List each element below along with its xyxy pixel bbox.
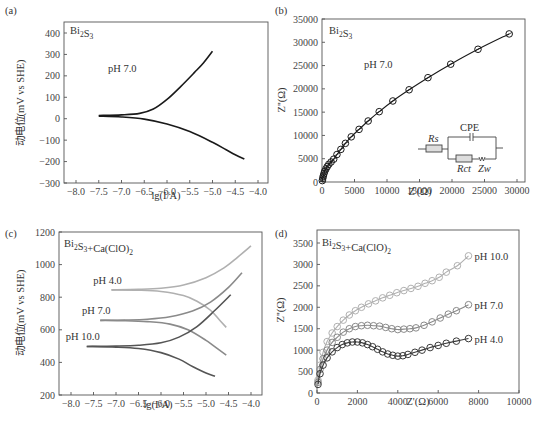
sample-label: Bi2S3: [70, 25, 94, 41]
sample-label: Bi2S3+Ca(ClO)2: [64, 238, 133, 257]
y-axis: 0500100015002000250030003500: [293, 238, 320, 399]
chart-panel-3: (d)0200040006000800010000050010001500200…: [275, 228, 532, 408]
circuit-label-rs: Rs: [427, 133, 439, 144]
y-tick-label: 300: [45, 49, 60, 60]
y-axis-title: Z''(Ω): [276, 87, 288, 112]
x-tick-label: 0: [315, 396, 320, 407]
x-tick-label: −5.0: [197, 398, 215, 409]
y-axis: −300−200−1000100200300400: [39, 28, 67, 189]
y-tick-label: 20000: [293, 83, 318, 94]
y-tick-label: −300: [39, 178, 60, 189]
x-tick-label: 5000: [345, 185, 365, 196]
x-tick-label: −4.5: [219, 398, 237, 409]
x-axis-title: lg(I/A): [143, 399, 173, 411]
series-label: pH 7.0: [475, 300, 504, 311]
y-tick-label: 100: [45, 92, 60, 103]
y-tick-label: 2500: [293, 280, 313, 291]
sample-label: Bi2S3: [329, 25, 353, 41]
x-axis-title: Z'(Ω): [408, 186, 432, 198]
panel-label: (b): [275, 5, 288, 17]
x-tick-label: 10000: [375, 185, 400, 196]
data-series: pH 10.0: [315, 251, 509, 384]
data-series: [112, 290, 227, 327]
x-tick-label: −4.0: [249, 186, 267, 197]
y-tick-label: 1500: [293, 323, 313, 334]
data-series: [87, 346, 215, 376]
y-tick-label: 800: [40, 292, 55, 303]
circuit-label-cpe: CPE: [460, 122, 479, 133]
x-tick-label: 10000: [507, 396, 532, 407]
x-axis-title: lg(I/A): [151, 190, 181, 202]
x-tick-label: −5.5: [174, 398, 192, 409]
chart-panel-0: (a)−8.0−7.5−7.0−6.5−6.0−5.5−5.0−4.5−4.0−…: [5, 5, 268, 202]
data-series: [99, 116, 245, 159]
y-tick-label: 400: [40, 357, 55, 368]
y-tick-label: 500: [298, 366, 313, 377]
ph-annotation: pH 7.0: [108, 63, 137, 74]
series-label: pH 4.0: [475, 334, 504, 345]
y-axis: 20040060080010001200: [35, 227, 62, 401]
circuit-label-rct: Rct: [456, 163, 472, 174]
x-tick-label: 6000: [428, 396, 448, 407]
y-tick-label: −200: [39, 156, 60, 167]
panel-label: (d): [275, 228, 288, 240]
x-tick-label: −7.5: [90, 186, 108, 197]
y-tick-label: 3500: [293, 238, 313, 249]
sample-label: Bi2S3+Ca(ClO)2: [322, 237, 391, 256]
y-tick-label: 200: [45, 70, 60, 81]
data-series: [99, 51, 213, 115]
y-tick-label: 35000: [293, 14, 318, 25]
series-label: pH 10.0: [475, 251, 509, 262]
x-tick-label: 0: [320, 185, 325, 196]
y-axis: 05000100001500020000250003000035000: [293, 14, 325, 188]
y-axis-title: Z''(Ω): [275, 297, 287, 322]
data-series: [100, 320, 226, 355]
x-tick-label: 25000: [472, 185, 497, 196]
y-tick-label: 2000: [293, 302, 313, 313]
figure-canvas: (a)−8.0−7.5−7.0−6.5−6.0−5.5−5.0−4.5−4.0−…: [0, 0, 543, 436]
x-tick-label: −7.5: [84, 398, 102, 409]
data-series: pH 4.0: [315, 334, 503, 388]
panel-label: (c): [5, 228, 17, 240]
equivalent-circuit-diagram: RsCPERctZw: [418, 122, 503, 174]
x-tick-label: −5.0: [203, 186, 221, 197]
circuit-label-zw: Zw: [478, 163, 491, 174]
x-tick-label: −7.0: [112, 186, 130, 197]
x-tick-label: 4000: [388, 396, 408, 407]
y-tick-label: 0: [313, 177, 318, 188]
y-tick-label: 10000: [293, 130, 318, 141]
panel-label: (a): [5, 5, 17, 17]
y-tick-label: 200: [40, 390, 55, 401]
x-tick-label: 8000: [469, 396, 489, 407]
data-series: pH 10.0: [66, 295, 231, 347]
y-tick-label: 0: [55, 113, 60, 124]
y-tick-label: 1000: [293, 345, 313, 356]
chart-panel-2: (c)−8.0−7.5−7.0−6.5−6.0−5.5−5.0−4.5−4.02…: [5, 227, 262, 412]
x-tick-label: −7.0: [107, 398, 125, 409]
y-tick-label: 600: [40, 324, 55, 335]
y-tick-label: 1200: [35, 227, 55, 238]
x-tick-label: 30000: [505, 185, 530, 196]
series-label: pH 7.0: [82, 305, 111, 316]
x-tick-label: −8.0: [62, 398, 80, 409]
y-tick-label: 30000: [293, 37, 318, 48]
x-tick-label: −8.0: [67, 186, 85, 197]
y-tick-label: 3000: [293, 259, 313, 270]
x-axis-title: Z'(Ω): [406, 396, 430, 408]
y-tick-label: 1000: [35, 259, 55, 270]
series-label: pH 4.0: [93, 275, 122, 286]
ph-annotation: pH 7.0: [364, 59, 393, 70]
y-tick-label: −100: [39, 135, 60, 146]
series-label: pH 10.0: [66, 331, 100, 342]
y-tick-label: 25000: [293, 60, 318, 71]
y-axis-title: 动电位(mV vs SHE): [14, 59, 27, 146]
plot-frame: [322, 19, 525, 182]
x-tick-label: 20000: [440, 185, 465, 196]
y-tick-label: 0: [308, 388, 313, 399]
y-axis-title: 动电位(mV vs SHE): [14, 269, 27, 356]
plot-frame: [64, 22, 268, 183]
y-tick-label: 15000: [293, 107, 318, 118]
chart-panel-1: (b)0500010000150002000025000300000500010…: [275, 5, 530, 198]
y-tick-label: 5000: [298, 153, 318, 164]
x-tick-label: −4.5: [226, 186, 244, 197]
